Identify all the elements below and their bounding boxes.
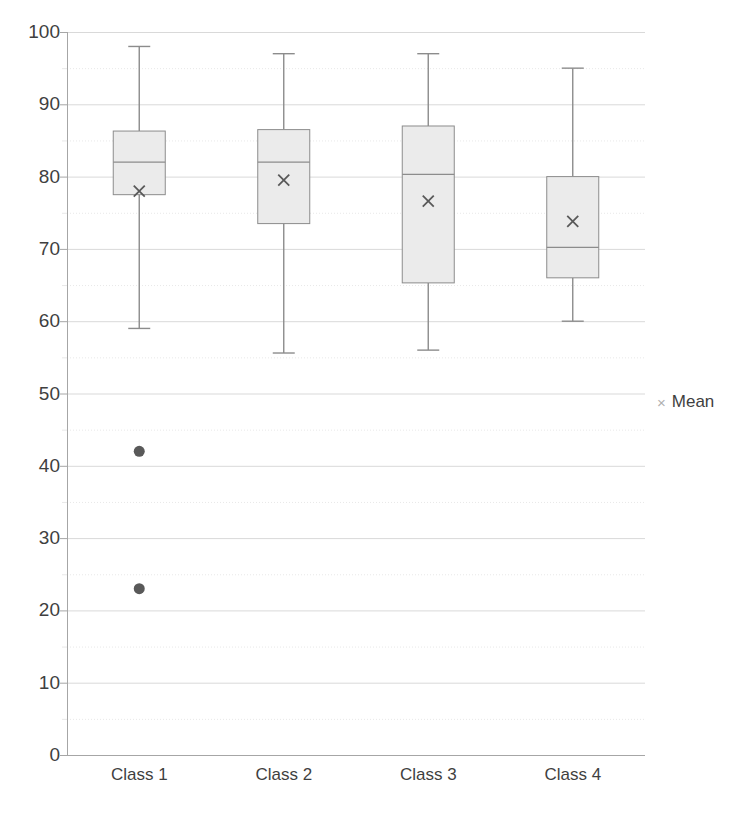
y-axis-tick-label: 70 (4, 238, 60, 260)
legend-mean-marker-icon: × (657, 395, 666, 410)
box-iqr (113, 131, 165, 195)
y-axis-tick-label: 20 (4, 599, 60, 621)
box-iqr (547, 177, 599, 278)
plot-area (0, 0, 742, 815)
legend: × Mean (657, 392, 714, 412)
y-axis-tick-labels: 0102030405060708090100 (0, 0, 60, 815)
box-plot-chart: 0102030405060708090100 Class 1Class 2Cla… (0, 0, 742, 815)
y-axis-tick-label: 50 (4, 383, 60, 405)
x-axis-category-label-4: Class 4 (544, 765, 601, 785)
y-axis-tick-label: 90 (4, 93, 60, 115)
box-plot-3 (402, 54, 454, 350)
box-iqr (258, 130, 310, 224)
x-axis-category-label-3: Class 3 (400, 765, 457, 785)
x-axis-category-label-2: Class 2 (255, 765, 312, 785)
y-axis-tick-label: 30 (4, 527, 60, 549)
y-axis-tick-label: 40 (4, 455, 60, 477)
box-plot-1 (113, 46, 165, 594)
y-axis-tick-label: 10 (4, 672, 60, 694)
y-axis-tick-label: 0 (4, 744, 60, 766)
legend-mean-label: Mean (672, 392, 715, 412)
x-axis-category-label-1: Class 1 (111, 765, 168, 785)
box-iqr (402, 126, 454, 283)
y-axis-tick-label: 80 (4, 166, 60, 188)
y-axis-tick-label: 60 (4, 310, 60, 332)
outlier-point (134, 446, 145, 457)
y-axis-tick-label: 100 (4, 21, 60, 43)
box-plot-4 (547, 68, 599, 321)
box-plot-2 (258, 54, 310, 353)
outlier-point (134, 583, 145, 594)
